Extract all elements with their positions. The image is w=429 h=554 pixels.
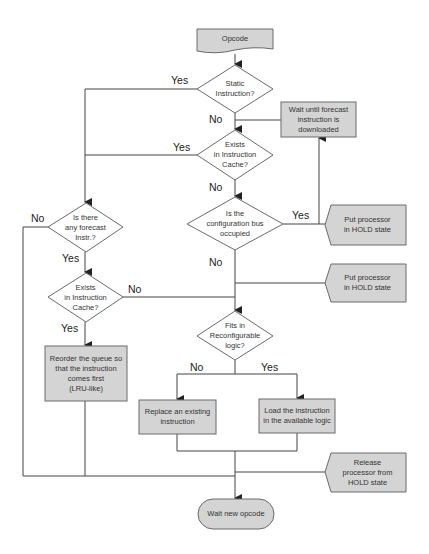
load-text: Load the instruction in the available lo… xyxy=(259,399,335,433)
hold2-text: Put processor in HOLD state xyxy=(329,264,406,302)
label-fits-yes: Yes xyxy=(261,361,278,373)
label-static-no: No xyxy=(209,113,222,125)
wait-new-text: Wait new opcode xyxy=(198,499,274,529)
exists2-text: Exists in Instruction Cache? xyxy=(48,273,123,322)
exists1-text: Exists in Instruction Cache? xyxy=(197,130,273,180)
label-config-yes: Yes xyxy=(292,209,309,221)
fits-text: Fits in Reconfigurable logic? xyxy=(197,311,273,360)
opcode-text: Opcode xyxy=(197,29,273,49)
label-forecast-no: No xyxy=(31,212,44,224)
label-exists1-no: No xyxy=(209,181,222,193)
wait-forecast-text: Wait until forecast instruction is downl… xyxy=(281,102,356,137)
replace-text: Replace an existing instruction xyxy=(139,400,216,434)
reorder-text: Reorder the queue so that the instructio… xyxy=(45,346,127,401)
config-bus-text: Is the configuration bus occupied xyxy=(187,197,283,250)
label-exists2-no: No xyxy=(128,283,141,295)
hold1-text: Put processor in HOLD state xyxy=(329,205,406,245)
label-forecast-yes: Yes xyxy=(62,252,79,264)
forecast-text: Is there any forecast Instr.? xyxy=(48,203,123,252)
label-config-no: No xyxy=(209,256,222,268)
label-static-yes: Yes xyxy=(171,74,188,86)
edge-fits-yes xyxy=(235,374,297,398)
edge-merge xyxy=(177,433,297,451)
label-fits-no: No xyxy=(190,361,203,373)
release-text: Release processor from HOLD state xyxy=(329,453,406,492)
label-exists2-yes: Yes xyxy=(61,322,78,334)
edge-fits-no xyxy=(177,374,235,399)
label-exists1-yes: Yes xyxy=(173,141,190,153)
static-text: Static Instruction? xyxy=(197,65,273,113)
